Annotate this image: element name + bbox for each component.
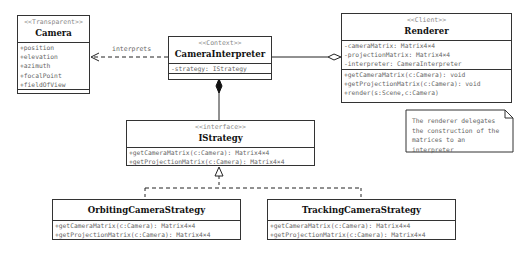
stereotype: <<Context>> <box>169 39 271 48</box>
class-header: <<interface>> IStrategy <box>127 121 314 148</box>
operations-section: +getCameraMatrix(c:Camera): Matrix4×4 +g… <box>53 221 240 239</box>
note-line: matrices to an interpreter <box>412 135 507 154</box>
class-camera-interpreter[interactable]: <<Context>> CameraInterpreter -strategy:… <box>168 36 272 80</box>
class-renderer[interactable]: <<Client>> Renderer -cameraMatrix: Matri… <box>341 13 512 103</box>
class-header: <<Context>> CameraInterpreter <box>169 37 271 64</box>
stereotype: <<interface>> <box>127 123 314 132</box>
class-header: <<Client>> Renderer <box>342 14 511 41</box>
class-name: Camera <box>18 27 89 39</box>
attribute: -cameraMatrix: Matrix4×4 <box>342 41 511 50</box>
operation: +getProjectionMatrix(c:Camera): Matrix4×… <box>268 230 455 239</box>
class-name: CameraInterpreter <box>169 48 271 60</box>
attribute: +azimuth <box>18 61 89 70</box>
interprets-label: interprets <box>112 45 151 53</box>
operations-section <box>169 74 271 78</box>
hollow-diamond-icon <box>328 54 341 60</box>
operations-section <box>18 90 89 94</box>
operation: +render(s:Scene,c:Camera) <box>342 88 511 97</box>
filled-diamond-icon <box>216 79 222 93</box>
operation: +getCameraMatrix(c:Camera): Matrix4×4 <box>127 148 314 157</box>
attribute: +focalPoint <box>18 71 89 80</box>
operations-section: +getCameraMatrix(c:Camera): Matrix4×4 +g… <box>127 148 314 166</box>
class-header: OrbitingCameraStrategy <box>53 200 240 221</box>
attributes-section: -strategy: IStrategy <box>169 64 271 74</box>
class-header: TrackingCameraStrategy <box>268 200 455 221</box>
attribute: -interpreter: CameraInterpreter <box>342 59 511 68</box>
attribute: +elevation <box>18 52 89 61</box>
stereotype: <<Transparent>> <box>18 18 89 27</box>
attributes-section: -cameraMatrix: Matrix4×4 -projectionMatr… <box>342 41 511 70</box>
class-camera[interactable]: <<Transparent>> Camera +position +elevat… <box>17 15 90 94</box>
operation: +getProjectionMatrix(c:Camera): void <box>342 79 511 88</box>
stereotype: <<Client>> <box>342 16 511 25</box>
note-line: the construction of the <box>412 126 507 136</box>
attribute: +fieldOfView <box>18 80 89 89</box>
operation: +getProjectionMatrix(c:Camera): Matrix4×… <box>53 230 240 239</box>
note: The renderer delegates the construction … <box>406 111 513 152</box>
attributes-section: +position +elevation +azimuth +focalPoin… <box>18 43 89 90</box>
operation: +getProjectionMatrix(c:Camera): Matrix4×… <box>127 157 314 166</box>
class-orbiting-camera-strategy[interactable]: OrbitingCameraStrategy +getCameraMatrix(… <box>52 199 241 240</box>
class-name: OrbitingCameraStrategy <box>53 204 240 216</box>
operation: +getCameraMatrix(c:Camera): Matrix4×4 <box>268 221 455 230</box>
class-istrategy[interactable]: <<interface>> IStrategy +getCameraMatrix… <box>126 120 315 166</box>
attribute: -projectionMatrix: Matrix4×4 <box>342 50 511 59</box>
attribute: +position <box>18 43 89 52</box>
class-header: <<Transparent>> Camera <box>18 16 89 43</box>
operations-section: +getCameraMatrix(c:Camera): void +getPro… <box>342 70 511 98</box>
class-tracking-camera-strategy[interactable]: TrackingCameraStrategy +getCameraMatrix(… <box>267 199 456 240</box>
class-name: IStrategy <box>127 132 314 144</box>
operation: +getCameraMatrix(c:Camera): void <box>342 70 511 79</box>
class-name: TrackingCameraStrategy <box>268 204 455 216</box>
hollow-triangle-icon <box>215 167 223 176</box>
operation: +getCameraMatrix(c:Camera): Matrix4×4 <box>53 221 240 230</box>
class-name: Renderer <box>342 25 511 37</box>
operations-section: +getCameraMatrix(c:Camera): Matrix4×4 +g… <box>268 221 455 239</box>
note-line: The renderer delegates <box>412 116 507 126</box>
attribute: -strategy: IStrategy <box>169 64 271 73</box>
